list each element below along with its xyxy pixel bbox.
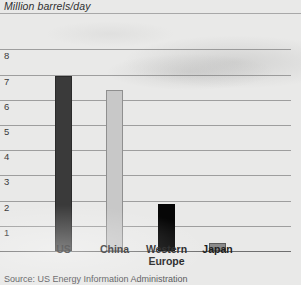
- x-label-japan: Japan: [178, 243, 258, 255]
- bars-group: [0, 13, 301, 238]
- chart-screenshot: Million barrels/day 12345678 USChinaWest…: [0, 0, 301, 285]
- bar-us: [55, 76, 72, 251]
- source-note: Source: US Energy Information Administra…: [4, 274, 188, 284]
- bar-china: [106, 90, 123, 251]
- chart-title: Million barrels/day: [4, 0, 91, 12]
